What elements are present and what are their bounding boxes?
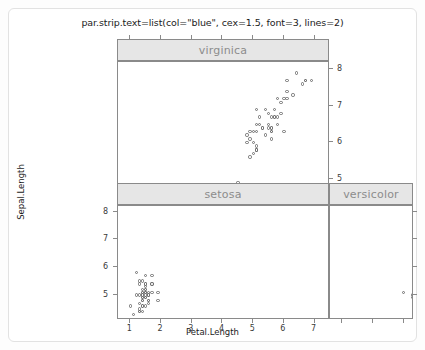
data-point [255,148,258,151]
data-point [245,141,248,144]
data-point [255,144,258,147]
y-tick-virginica-5 [329,178,333,179]
data-point [270,137,273,140]
data-point [276,123,279,126]
data-point [258,123,261,126]
data-point [150,282,153,285]
data-point [279,112,282,115]
x-tick-right-1 [341,319,342,323]
y-tick-setosa-6 [113,266,117,267]
data-point [273,108,276,111]
x-tick-label-2: 2 [157,324,162,333]
strip-setosa: setosa [117,183,329,205]
y-tick-label-setosa-6: 6 [103,262,108,271]
x-tick-top-7 [314,35,315,39]
data-point [282,130,285,133]
data-point [141,299,144,302]
data-point [261,126,264,129]
x-tick-top-5 [252,35,253,39]
data-point [291,93,294,96]
data-point [252,152,255,155]
data-point [150,274,153,277]
data-point [141,293,144,296]
x-tick-top-4 [221,35,222,39]
data-point [255,130,258,133]
panel-box-versicolor [329,205,413,319]
data-point [402,291,405,294]
y-tick-virginica-7 [329,105,333,106]
data-point [141,310,144,313]
data-point [248,137,251,140]
data-point [248,155,251,158]
data-point [141,304,144,307]
y-tick-label-setosa-8: 8 [103,206,108,215]
data-point [135,271,138,274]
data-point [144,304,147,307]
x-tick-label-3: 3 [188,324,193,333]
data-point [150,291,153,294]
data-point [258,115,261,118]
y-tick-versicolor-7 [413,238,417,239]
data-point [156,291,159,294]
x-tick-4 [221,319,222,323]
x-tick-label-4: 4 [219,324,224,333]
data-point [132,313,135,316]
panel-versicolor[interactable]: versicolor [329,183,413,319]
data-point [144,274,147,277]
y-tick-setosa-7 [113,238,117,239]
x-tick-3 [191,319,192,323]
page-title: par.strip.text=list(col="blue", cex=1.5,… [9,17,416,28]
x-tick-label-6: 6 [280,324,285,333]
x-tick-5 [252,319,253,323]
x-tick-top-1 [129,35,130,39]
data-point [310,79,313,82]
data-point [295,71,298,74]
y-tick-label-virginica-7: 7 [337,100,342,109]
data-point [147,302,150,305]
data-point [267,126,270,129]
x-tick-2 [160,319,161,323]
data-point [282,97,285,100]
data-point [285,90,288,93]
data-point [141,279,144,282]
y-tick-setosa-8 [113,211,117,212]
data-point [129,304,132,307]
y-tick-label-virginica-6: 6 [337,137,342,146]
y-axis-label: Sepal.Length [16,147,26,237]
panel-setosa[interactable]: setosa [117,183,329,319]
y-tick-virginica-8 [329,68,333,69]
y-tick-label-setosa-7: 7 [103,234,108,243]
y-tick-versicolor-8 [413,211,417,212]
x-tick-7 [314,319,315,323]
x-axis-label: Petal.Length [9,327,416,337]
x-tick-top-6 [283,35,284,39]
x-tick-right-2 [372,319,373,323]
data-point [304,79,307,82]
x-tick-label-5: 5 [250,324,255,333]
strip-label-setosa: setosa [204,188,241,201]
x-tick-top-3 [191,35,192,39]
y-tick-label-virginica-5: 5 [337,174,342,183]
data-point [273,115,276,118]
strip-label-versicolor: versicolor [343,188,399,201]
data-point [138,310,141,313]
data-point [147,299,150,302]
data-point [276,115,279,118]
data-point [285,97,288,100]
x-tick-top-2 [160,35,161,39]
y-tick-versicolor-6 [413,266,417,267]
data-point [252,130,255,133]
x-tick-label-1: 1 [127,324,132,333]
x-tick-6 [283,319,284,323]
x-tick-right-3 [403,319,404,323]
data-point [264,108,267,111]
strip-virginica: virginica [117,39,329,61]
strip-label-virginica: virginica [199,44,248,57]
y-tick-label-setosa-5: 5 [103,289,108,298]
y-tick-versicolor-5 [413,294,417,295]
data-point [279,101,282,104]
strip-versicolor: versicolor [329,183,413,205]
data-point [138,279,141,282]
data-point [156,299,159,302]
plot-frame: par.strip.text=list(col="blue", cex=1.5,… [8,8,417,342]
